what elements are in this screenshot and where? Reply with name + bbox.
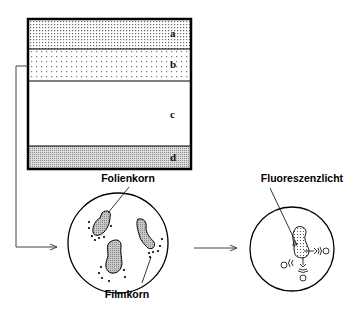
layer-b-label: b — [170, 58, 176, 70]
screen-grain-3 — [106, 240, 122, 273]
layer-d-label: d — [170, 151, 176, 163]
grain-magnification: Folienkorn Filmkorn — [68, 172, 168, 300]
layer-a-label: a — [170, 27, 176, 39]
layer-d — [28, 146, 191, 169]
layer-c-label: c — [170, 108, 175, 120]
film-screen-diagram: a b c d Folienkorn Filmkorn — [0, 0, 361, 309]
layer-c — [28, 81, 191, 146]
fluorescence-label: Fluoreszenzlicht — [261, 172, 344, 184]
screen-grain-label: Folienkorn — [101, 172, 155, 184]
layer-a — [28, 19, 191, 49]
layer-b — [28, 49, 191, 81]
film-grain-label: Filmkorn — [105, 288, 149, 300]
layer-stack: a b c d — [28, 19, 191, 169]
fluorescence-magnification: Fluoreszenzlicht — [250, 172, 344, 291]
